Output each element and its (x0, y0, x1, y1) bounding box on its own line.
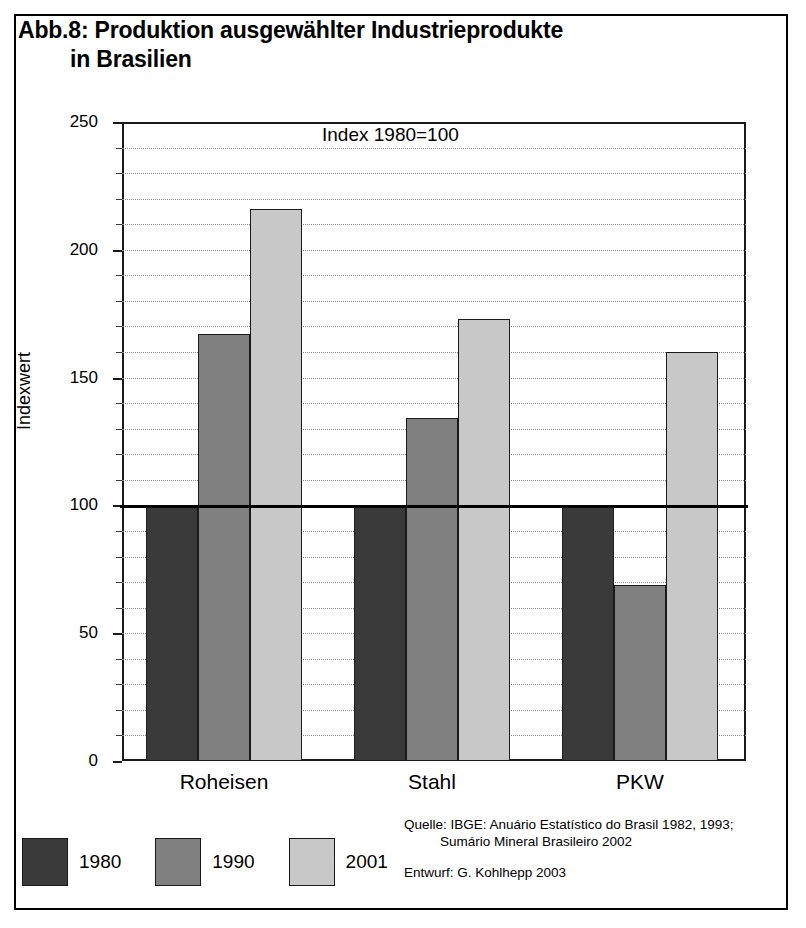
y-axis-minor-tick (116, 429, 122, 430)
reference-line-100 (120, 505, 748, 508)
y-axis-minor-tick (116, 659, 122, 660)
y-axis-minor-tick (116, 557, 122, 558)
title-line-2: in Brasilien (18, 45, 738, 74)
bar-stahl-2001 (458, 319, 510, 761)
gridline (122, 275, 746, 276)
y-axis-minor-tick (116, 224, 122, 225)
legend-item-1980: 1980 (22, 838, 121, 886)
bar-pkw-1990 (614, 585, 666, 761)
x-axis-label-stahl: Stahl (354, 770, 510, 794)
y-axis-tick-label: 200 (52, 241, 98, 258)
source-line-1: Quelle: IBGE: Anuário Estatístico do Bra… (404, 817, 733, 832)
y-axis-minor-tick (116, 684, 122, 685)
y-axis-minor-tick (116, 173, 122, 174)
y-axis-minor-tick (116, 608, 122, 609)
y-axis-minor-tick (116, 454, 122, 455)
bar-roheisen-1990 (198, 334, 250, 761)
y-axis-minor-tick (116, 582, 122, 583)
y-axis-minor-tick (116, 735, 122, 736)
y-axis-minor-tick (116, 480, 122, 481)
y-axis-tick-label: 50 (52, 624, 98, 641)
x-axis-label-pkw: PKW (562, 770, 718, 794)
legend-label-1990: 1990 (212, 851, 254, 873)
y-axis-tick-label: 250 (52, 113, 98, 130)
bar-pkw-2001 (666, 352, 718, 761)
y-axis-minor-tick (116, 199, 122, 200)
y-axis-major-tick (113, 250, 122, 252)
y-axis-tick-label: 100 (52, 496, 98, 513)
gridline (122, 224, 746, 225)
legend-item-1990: 1990 (155, 838, 254, 886)
y-axis-minor-tick (116, 275, 122, 276)
y-axis-tick-label: 150 (52, 369, 98, 386)
gridline (122, 250, 746, 251)
source-line-2: Sumário Mineral Brasileiro 2002 (404, 833, 764, 850)
bar-roheisen-2001 (250, 209, 302, 761)
y-axis-minor-tick (116, 352, 122, 353)
gridline (122, 301, 746, 302)
legend-item-2001: 2001 (289, 838, 388, 886)
index-annotation: Index 1980=100 (322, 124, 459, 146)
source-line-3: Entwurf: G. Kohlhepp 2003 (404, 864, 764, 881)
legend-swatch-2001 (289, 838, 335, 886)
plot-area: Index 1980=100 (122, 122, 746, 761)
y-axis-major-tick (113, 378, 122, 380)
y-axis-title: Indexwert (14, 352, 35, 430)
y-axis-minor-tick (116, 326, 122, 327)
y-axis-minor-tick (116, 301, 122, 302)
gridline (122, 326, 746, 327)
bar-roheisen-1980 (146, 505, 198, 761)
y-axis-tick-label: 0 (52, 752, 98, 769)
legend-label-1980: 1980 (79, 851, 121, 873)
y-axis-minor-tick (116, 403, 122, 404)
x-axis-label-roheisen: Roheisen (146, 770, 302, 794)
bar-stahl-1990 (406, 418, 458, 761)
y-axis-minor-tick (116, 148, 122, 149)
figure-page: Abb.8: Produktion ausgewählter Industrie… (0, 0, 806, 928)
y-axis-minor-tick (116, 710, 122, 711)
legend-label-2001: 2001 (346, 851, 388, 873)
page-title: Abb.8: Produktion ausgewählter Industrie… (18, 16, 738, 74)
gridline (122, 199, 746, 200)
legend-swatch-1990 (155, 838, 201, 886)
y-axis-major-tick (113, 633, 122, 635)
bar-stahl-1980 (354, 505, 406, 761)
y-axis-major-tick (113, 761, 122, 763)
title-line-1: Abb.8: Produktion ausgewählter Industrie… (18, 17, 563, 43)
bar-pkw-1980 (562, 505, 614, 761)
y-axis-minor-tick (116, 531, 122, 532)
legend: 198019902001 (22, 838, 422, 886)
legend-swatch-1980 (22, 838, 68, 886)
gridline (122, 173, 746, 174)
source-note: Quelle: IBGE: Anuário Estatístico do Bra… (404, 816, 764, 881)
y-axis-major-tick (113, 122, 122, 124)
gridline (122, 148, 746, 149)
